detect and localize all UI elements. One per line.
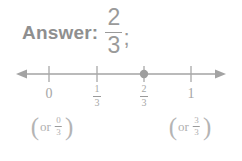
arrow-right-icon bbox=[215, 70, 226, 79]
alt-label-zero-open-paren: ( bbox=[31, 117, 39, 137]
answer-fraction: 2 3 bbox=[105, 6, 122, 58]
alt-label-zero-fraction: 0 3 bbox=[55, 116, 62, 137]
alt-label-zero-numerator: 0 bbox=[56, 116, 61, 125]
answer-label: Answer: bbox=[22, 23, 98, 42]
tick-label-two-thirds: 2 3 bbox=[140, 84, 148, 108]
arrow-left-icon bbox=[16, 70, 27, 79]
alt-label-zero: ( or 0 3 ) bbox=[31, 116, 74, 137]
tick-label-0: 0 bbox=[46, 84, 53, 101]
alt-label-zero-denominator: 3 bbox=[56, 128, 61, 137]
alt-label-one-open-paren: ( bbox=[169, 117, 177, 137]
tick-label-one-third: 1 3 bbox=[93, 84, 101, 108]
point-marker-two-thirds bbox=[140, 70, 148, 78]
tick-label-1: 1 bbox=[188, 84, 195, 101]
tick-label-two-thirds-numerator: 2 bbox=[142, 84, 147, 94]
tick-label-one-third-fraction: 1 3 bbox=[93, 84, 101, 108]
alt-label-one-numerator: 3 bbox=[194, 116, 199, 125]
number-line-axis bbox=[0, 58, 242, 92]
alt-label-one-denominator: 3 bbox=[194, 128, 199, 137]
alt-label-zero-or-text: or bbox=[40, 120, 51, 134]
alt-label-one-fraction: 3 3 bbox=[193, 116, 200, 137]
number-line: 0 1 3 2 3 1 ( or 0 3 bbox=[0, 58, 242, 161]
alt-label-one-close-paren: ) bbox=[203, 117, 211, 137]
tick-label-one-third-denominator: 3 bbox=[95, 98, 100, 108]
alt-label-one-or-text: or bbox=[178, 120, 189, 134]
tick-label-two-thirds-denominator: 3 bbox=[142, 98, 147, 108]
tick-label-one-third-numerator: 1 bbox=[95, 84, 100, 94]
answer-statement: Answer: 2 3 ; bbox=[22, 6, 130, 58]
alt-label-one: ( or 3 3 ) bbox=[169, 116, 212, 137]
alt-label-zero-close-paren: ) bbox=[65, 117, 73, 137]
answer-fraction-numerator: 2 bbox=[107, 6, 120, 29]
answer-fraction-denominator: 3 bbox=[107, 34, 120, 57]
answer-punctuation: ; bbox=[123, 27, 129, 49]
tick-label-two-thirds-fraction: 2 3 bbox=[140, 84, 148, 108]
tick-label-0-value: 0 bbox=[46, 84, 53, 101]
tick-label-1-value: 1 bbox=[188, 84, 195, 101]
answer-sheet: Answer: 2 3 ; 0 bbox=[0, 0, 242, 161]
